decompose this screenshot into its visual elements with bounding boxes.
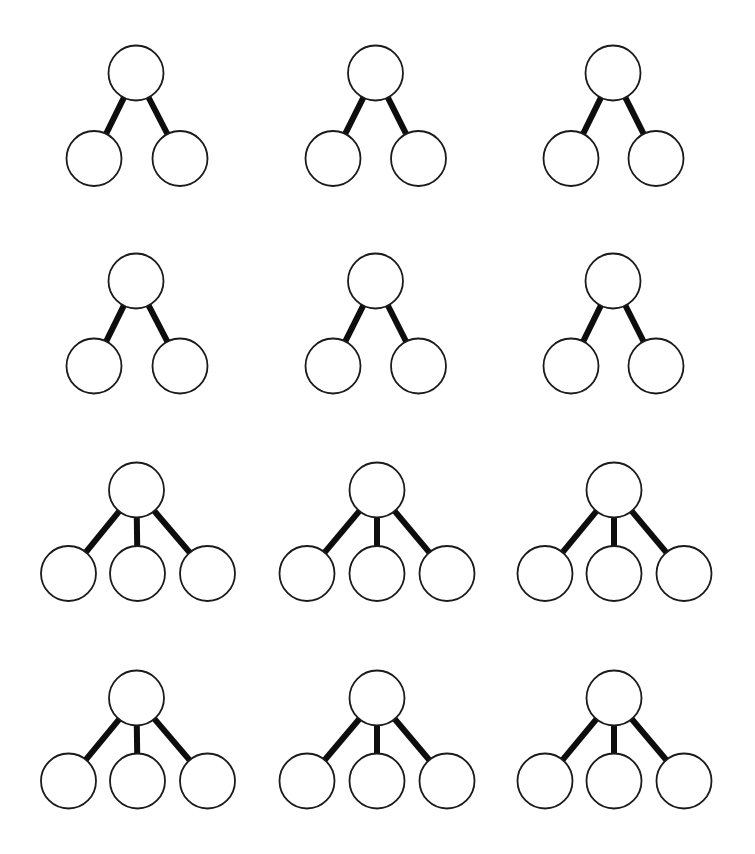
whole-circle[interactable]	[587, 463, 642, 518]
part-circle[interactable]	[153, 131, 208, 186]
part-circle[interactable]	[657, 546, 712, 601]
part-circle[interactable]	[350, 546, 405, 601]
part-circle[interactable]	[280, 546, 335, 601]
part-circle[interactable]	[306, 131, 361, 186]
whole-circle[interactable]	[586, 254, 641, 309]
part-circle[interactable]	[67, 339, 122, 394]
part-circle[interactable]	[518, 546, 573, 601]
part-circle[interactable]	[587, 754, 642, 809]
part-circle[interactable]	[180, 754, 235, 809]
whole-circle[interactable]	[348, 46, 403, 101]
part-circle[interactable]	[629, 339, 684, 394]
part-circle[interactable]	[350, 754, 405, 809]
whole-circle[interactable]	[350, 671, 405, 726]
part-circle[interactable]	[306, 339, 361, 394]
part-circle[interactable]	[420, 546, 475, 601]
part-circle[interactable]	[41, 546, 96, 601]
whole-circle[interactable]	[350, 463, 405, 518]
whole-circle[interactable]	[587, 671, 642, 726]
part-circle[interactable]	[420, 754, 475, 809]
part-circle[interactable]	[67, 131, 122, 186]
part-circle[interactable]	[587, 546, 642, 601]
whole-circle[interactable]	[348, 254, 403, 309]
whole-circle[interactable]	[109, 463, 164, 518]
number-bond-worksheet	[0, 0, 755, 854]
whole-circle[interactable]	[586, 46, 641, 101]
part-circle[interactable]	[41, 754, 96, 809]
part-circle[interactable]	[110, 754, 165, 809]
part-circle[interactable]	[657, 754, 712, 809]
part-circle[interactable]	[180, 546, 235, 601]
part-circle[interactable]	[153, 339, 208, 394]
part-circle[interactable]	[544, 339, 599, 394]
part-circle[interactable]	[280, 754, 335, 809]
whole-circle[interactable]	[109, 254, 164, 309]
part-circle[interactable]	[110, 546, 165, 601]
part-circle[interactable]	[391, 339, 446, 394]
part-circle[interactable]	[629, 131, 684, 186]
part-circle[interactable]	[544, 131, 599, 186]
part-circle[interactable]	[391, 131, 446, 186]
part-circle[interactable]	[518, 754, 573, 809]
whole-circle[interactable]	[109, 671, 164, 726]
whole-circle[interactable]	[109, 46, 164, 101]
